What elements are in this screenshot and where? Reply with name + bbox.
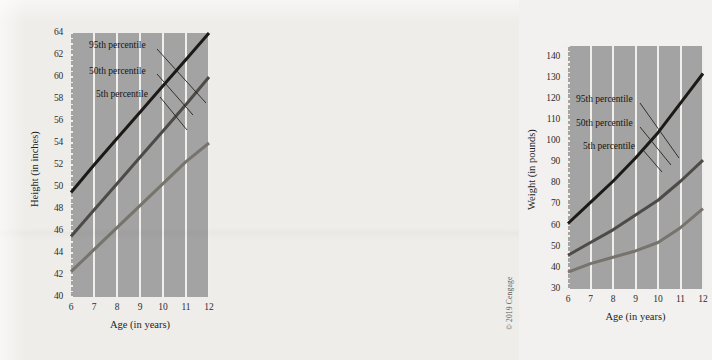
x-tick-label-11: 11 [176,302,196,312]
y-tick-label-56: 56 [39,115,63,125]
x-tick-label-6: 6 [558,294,578,304]
legend-leader-line [157,74,193,115]
weight-legend-p5: 5th percentile [583,141,635,151]
x-tick-label-11: 11 [671,294,691,304]
x-tick-label-12: 12 [199,302,219,312]
y-tick-label-80: 80 [536,177,560,187]
series-line-50th-percentile [568,160,703,255]
y-tick-label-50: 50 [39,181,63,191]
y-tick-label-40: 40 [536,262,560,272]
series-line-5th-percentile [71,143,209,272]
y-tick-label-46: 46 [39,225,63,235]
copyright-notice: © 2019 Cengage [505,277,514,331]
height-legend-p95: 95th percentile [89,40,146,50]
height-x-axis-title: Age (in years) [51,319,229,330]
x-tick-label-10: 10 [153,302,173,312]
weight-series-lines [258,0,712,360]
y-tick-label-110: 110 [536,114,560,124]
x-tick-label-12: 12 [693,294,712,304]
y-tick-label-60: 60 [536,220,560,230]
y-tick-label-44: 44 [39,247,63,257]
y-tick-label-140: 140 [536,51,560,61]
x-tick-label-9: 9 [626,294,646,304]
y-tick-label-60: 60 [39,71,63,81]
y-tick-label-64: 64 [39,27,63,37]
legend-leader-line [157,49,206,103]
y-tick-label-100: 100 [536,135,560,145]
weight-legend-p50: 50th percentile [576,118,633,128]
y-tick-label-70: 70 [536,198,560,208]
x-tick-label-6: 6 [61,302,81,312]
y-tick-label-54: 54 [39,137,63,147]
y-tick-label-130: 130 [536,72,560,82]
y-tick-label-62: 62 [39,49,63,59]
series-line-5th-percentile [568,209,703,272]
y-tick-label-40: 40 [39,291,63,301]
x-tick-label-7: 7 [581,294,601,304]
x-tick-label-7: 7 [84,302,104,312]
series-line-95th-percentile [71,33,209,193]
x-tick-label-10: 10 [648,294,668,304]
y-tick-label-42: 42 [39,269,63,279]
y-tick-label-120: 120 [536,93,560,103]
y-tick-label-50: 50 [536,241,560,251]
x-tick-label-8: 8 [107,302,127,312]
weight-legend-p95: 95th percentile [576,94,633,104]
y-tick-label-30: 30 [536,283,560,293]
y-tick-label-48: 48 [39,203,63,213]
legend-leader-line [643,150,662,172]
x-tick-label-8: 8 [603,294,623,304]
x-tick-label-9: 9 [130,302,150,312]
height-y-axis-title: Height (in inches) [29,131,40,207]
y-tick-label-52: 52 [39,159,63,169]
legend-leader-line [160,97,187,130]
height-legend-p50: 50th percentile [89,66,146,76]
series-line-50th-percentile [71,77,209,237]
weight-x-axis-title: Age (in years) [548,311,712,322]
weight-y-axis-title: Weight (in pounds) [526,129,537,210]
y-tick-label-90: 90 [536,156,560,166]
y-tick-label-58: 58 [39,93,63,103]
height-legend-p5: 5th percentile [96,89,148,99]
